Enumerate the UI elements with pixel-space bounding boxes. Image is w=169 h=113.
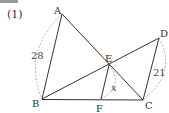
- measure-dc: 21: [153, 67, 166, 78]
- measure-ef: x: [111, 82, 117, 93]
- label-f: F: [96, 103, 103, 113]
- problem-number: (1): [7, 8, 23, 21]
- label-a: A: [53, 5, 62, 16]
- segment-bd: [42, 38, 159, 99]
- segment-bc: [42, 100, 143, 101]
- label-d: D: [160, 28, 168, 39]
- label-c: C: [145, 100, 153, 111]
- measure-ab: 28: [31, 50, 44, 61]
- geometry-figure: (1) A B C D E F 28 21 x: [0, 0, 169, 113]
- label-e: E: [105, 53, 112, 64]
- label-b: B: [32, 98, 39, 109]
- segment-ab: [42, 14, 62, 99]
- segment-ac: [62, 14, 143, 100]
